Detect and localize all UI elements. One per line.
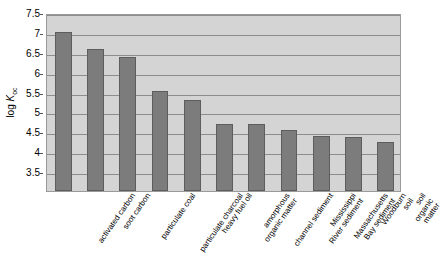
y-tick-mark — [40, 74, 43, 75]
y-tick-mark — [40, 34, 43, 35]
plot-area — [46, 14, 401, 192]
y-tick-mark — [40, 14, 43, 15]
y-tick-label: 5.5 — [26, 89, 40, 99]
bar[interactable] — [313, 136, 330, 191]
y-tick-label: 6.5 — [26, 49, 40, 59]
bar[interactable] — [248, 124, 265, 191]
y-tick-label: 4.5 — [26, 128, 40, 138]
x-tick-label: particulate coal — [160, 192, 198, 241]
y-tick-mark — [40, 133, 43, 134]
bar[interactable] — [377, 142, 394, 191]
x-tick-label: particulate charcoal — [199, 192, 246, 254]
y-tick-mark — [40, 113, 43, 114]
bar[interactable] — [345, 137, 362, 191]
y-axis-ticks: 7.576.565.554.543.5 — [14, 14, 43, 173]
y-tick-mark — [40, 153, 43, 154]
x-tick-label: amorphous organic matter — [255, 192, 298, 244]
bar[interactable] — [87, 49, 104, 191]
y-tick-label: 3.5 — [26, 168, 40, 178]
bar[interactable] — [281, 130, 298, 191]
bar[interactable] — [184, 100, 201, 191]
x-axis-labels: activated carbonsoot carbonparticulate c… — [46, 192, 401, 273]
bar[interactable] — [152, 91, 169, 191]
y-tick-mark — [40, 54, 43, 55]
x-tick-label: soil organic matter — [406, 192, 442, 228]
y-tick-mark — [40, 94, 43, 95]
bars-layer — [47, 15, 400, 191]
bar[interactable] — [216, 124, 233, 191]
y-tick-mark — [40, 173, 43, 174]
y-tick-label: 7.5 — [26, 9, 40, 19]
bar[interactable] — [55, 32, 72, 191]
bar[interactable] — [119, 57, 136, 191]
